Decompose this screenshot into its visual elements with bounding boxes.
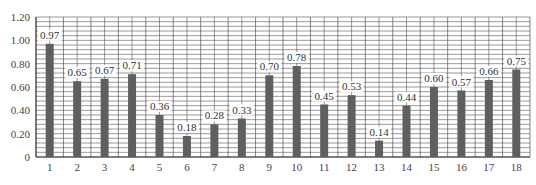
x-tick-label: 13 <box>374 161 386 173</box>
x-tick-label: 14 <box>401 161 413 173</box>
bar <box>430 87 438 157</box>
x-tick-label: 18 <box>511 161 523 173</box>
bar <box>128 74 136 157</box>
x-tick-label: 2 <box>74 161 80 173</box>
data-label: 0.53 <box>342 80 362 92</box>
x-tick-label: 1 <box>47 161 53 173</box>
data-label: 0.45 <box>315 90 335 102</box>
y-tick-label: 1.20 <box>11 11 31 23</box>
y-tick-label: 0.80 <box>11 58 31 70</box>
data-label: 0.18 <box>177 121 197 133</box>
bar <box>293 66 301 157</box>
data-label: 0.33 <box>232 104 252 116</box>
data-label: 0.44 <box>397 91 417 103</box>
bar-chart: 00.200.400.600.801.001.20 12345678910111… <box>0 0 536 185</box>
data-label: 0.28 <box>205 109 225 121</box>
bar <box>238 119 246 158</box>
bar <box>375 141 383 157</box>
x-tick-label: 12 <box>346 161 357 173</box>
x-tick-label: 8 <box>239 161 245 173</box>
x-tick-label: 17 <box>483 161 495 173</box>
y-tick-label: 1.00 <box>11 34 31 46</box>
data-label: 0.36 <box>150 100 170 112</box>
bar <box>320 105 328 158</box>
bar <box>101 79 109 157</box>
bar <box>265 75 273 157</box>
bar <box>46 44 54 157</box>
data-label: 0.75 <box>507 55 527 67</box>
x-axis-tick-labels: 123456789101112131415161718 <box>47 161 522 173</box>
data-label: 0.78 <box>287 51 307 63</box>
bar <box>457 91 465 158</box>
y-tick-label: 0 <box>25 151 31 163</box>
y-tick-label: 0.20 <box>11 128 31 140</box>
data-label: 0.70 <box>260 60 280 72</box>
x-tick-label: 11 <box>319 161 330 173</box>
x-tick-label: 5 <box>157 161 163 173</box>
bar <box>183 136 191 157</box>
x-tick-label: 4 <box>129 161 135 173</box>
x-tick-label: 16 <box>456 161 468 173</box>
data-label: 0.67 <box>95 64 115 76</box>
x-tick-label: 6 <box>184 161 190 173</box>
x-tick-label: 10 <box>291 161 303 173</box>
data-label: 0.71 <box>122 59 141 71</box>
bar <box>512 70 520 158</box>
bar <box>73 81 81 157</box>
x-tick-label: 7 <box>212 161 218 173</box>
y-axis-tick-labels: 00.200.400.600.801.001.20 <box>11 11 31 163</box>
y-tick-label: 0.40 <box>11 104 31 116</box>
y-tick-label: 0.60 <box>11 81 31 93</box>
bar <box>485 80 493 157</box>
bar <box>403 106 411 157</box>
data-label: 0.65 <box>68 66 88 78</box>
data-label: 0.60 <box>424 72 444 84</box>
x-tick-label: 9 <box>267 161 273 173</box>
data-label: 0.97 <box>40 29 60 41</box>
data-label: 0.66 <box>479 65 499 77</box>
x-tick-label: 15 <box>428 161 440 173</box>
data-label: 0.57 <box>452 76 472 88</box>
bar <box>210 124 218 157</box>
bar <box>156 115 164 157</box>
bar <box>348 95 356 157</box>
data-label: 0.14 <box>369 126 389 138</box>
x-tick-label: 3 <box>102 161 108 173</box>
